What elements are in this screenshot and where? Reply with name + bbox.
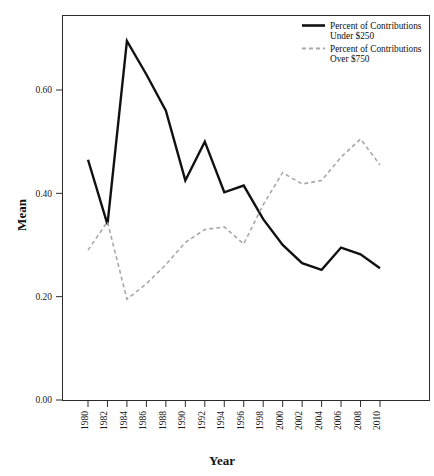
x-tick-label: 2004 <box>314 411 324 430</box>
legend-label-over-750-line1: Percent of Contributions <box>330 44 422 54</box>
x-tick-label: 1994 <box>216 411 226 430</box>
x-tick-label: 2008 <box>353 411 363 430</box>
y-tick-label: 0.60 <box>35 85 52 95</box>
x-tick-label: 1986 <box>138 411 148 430</box>
x-tick-label: 1984 <box>119 411 129 430</box>
x-tick-label: 1998 <box>255 411 265 430</box>
line-chart: 0.000.200.400.60 19801982198419861988199… <box>0 0 434 476</box>
y-tick-label: 0.40 <box>35 189 52 199</box>
legend-label-under-250-line1: Percent of Contributions <box>330 21 422 31</box>
x-tick-label: 2000 <box>275 411 285 430</box>
x-tick-label: 2006 <box>333 411 343 430</box>
x-tick-label: 1980 <box>80 411 90 430</box>
x-tick-label: 2002 <box>294 411 304 430</box>
x-tick-label: 1996 <box>236 411 246 430</box>
x-tick-label: 1990 <box>177 411 187 430</box>
legend-label-over-750-line2: Over $750 <box>330 54 370 64</box>
y-tick-label: 0.00 <box>35 395 52 405</box>
chart-canvas: 0.000.200.400.60 19801982198419861988199… <box>0 0 434 476</box>
legend-label-under-250-line2: Under $250 <box>330 31 375 41</box>
chart-background <box>0 0 434 476</box>
y-axis-title: Mean <box>14 198 29 231</box>
x-tick-label: 1982 <box>99 411 109 430</box>
y-tick-label: 0.20 <box>35 292 52 302</box>
x-axis-title: Year <box>209 453 235 468</box>
x-tick-label: 1992 <box>197 411 207 430</box>
x-tick-label: 2010 <box>372 411 382 430</box>
x-tick-label: 1988 <box>158 411 168 430</box>
